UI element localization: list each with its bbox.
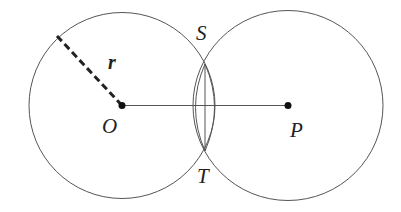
label-t: T (197, 164, 210, 188)
label-s: S (196, 21, 207, 45)
point-o (119, 102, 126, 109)
label-p: P (289, 118, 303, 142)
two-circles-diagram: r O P S T (0, 0, 401, 212)
label-o: O (102, 114, 117, 138)
label-r: r (108, 51, 116, 73)
lens-arc-right (205, 64, 215, 151)
point-p (285, 102, 292, 109)
